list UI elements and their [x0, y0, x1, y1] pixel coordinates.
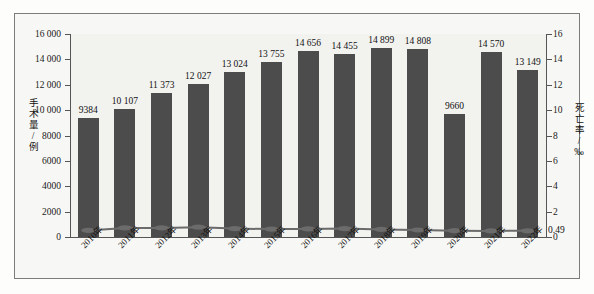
- y-axis-left-tick-label: 4000: [11, 181, 61, 191]
- bar-value-label: 9660: [431, 101, 477, 111]
- y-axis-left-tick-label: 0: [11, 232, 61, 242]
- bar-value-label: 14 808: [395, 36, 441, 46]
- y-axis-left-tick-label: 6000: [11, 156, 61, 166]
- y-axis-left-tick-label: 2000: [11, 207, 61, 217]
- line-series: [70, 34, 546, 237]
- line-series-end-label: 0.49: [548, 225, 565, 235]
- x-axis-tick-labels: 2010年2011年2012年2013年2014年2015年2016年2017年…: [70, 240, 546, 292]
- y-axis-right-tick: [547, 136, 552, 137]
- y-axis-left-tick-label: 14 000: [11, 54, 61, 64]
- y-axis-right-tick-label: 12: [553, 80, 587, 90]
- y-axis-right-tick: [547, 237, 552, 238]
- bar-value-label: 13 755: [248, 49, 294, 59]
- bar-value-label: 12 027: [175, 71, 221, 81]
- y-axis-right-tick-label: 16: [553, 29, 587, 39]
- y-axis-right-tick: [547, 161, 552, 162]
- y-axis-right-tick: [547, 212, 552, 213]
- y-axis-left-tick-label: 12 000: [11, 80, 61, 90]
- y-axis-right-tick: [547, 85, 552, 86]
- y-axis-right-title: 死亡率/‰: [570, 103, 584, 158]
- bar-value-label: 9384: [65, 105, 111, 115]
- y-axis-left-title: 手术量/例: [24, 98, 38, 153]
- bar-value-label: 14 570: [468, 39, 514, 49]
- y-axis-left-tick: [65, 237, 70, 238]
- y-axis-right-tick: [547, 110, 552, 111]
- y-axis-right-tick-label: 2: [553, 207, 587, 217]
- y-axis-right-tick: [547, 186, 552, 187]
- y-axis-left-tick-label: 16 000: [11, 29, 61, 39]
- bar-value-label: 13 024: [212, 59, 258, 69]
- y-axis-right-tick-label: 14: [553, 54, 587, 64]
- y-axis-right-tick-label: 4: [553, 181, 587, 191]
- bar-value-label: 13 149: [505, 57, 551, 67]
- chart-figure: 0200040006000800010 00012 00014 00016 00…: [0, 0, 594, 294]
- y-axis-right-tick: [547, 34, 552, 35]
- bar-value-label: 10 107: [102, 96, 148, 106]
